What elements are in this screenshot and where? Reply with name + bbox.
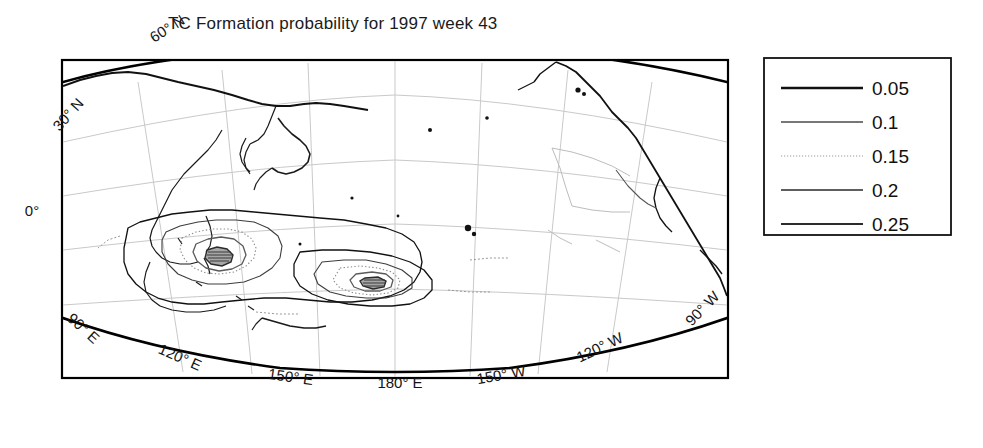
legend-label-0.05: 0.05: [872, 78, 909, 99]
lat-label-0: 0°: [25, 202, 39, 219]
legend-label-0.2: 0.2: [872, 180, 898, 201]
legend-label-0.1: 0.1: [872, 112, 898, 133]
figure-container: TC Formation probability for 1997 week 4…: [0, 0, 983, 448]
legend: 0.05 0.1 0.15 0.2 0.25: [764, 58, 951, 235]
legend-label-0.15: 0.15: [872, 146, 909, 167]
lon-label-180e: 180° E: [377, 374, 422, 391]
page-title: TC Formation probability for 1997 week 4…: [168, 14, 497, 34]
legend-box: [764, 58, 951, 235]
legend-label-0.25: 0.25: [872, 214, 909, 235]
map-figure: 60° N 30° N 0° 90° E 120° E 150° E 180° …: [0, 0, 983, 448]
